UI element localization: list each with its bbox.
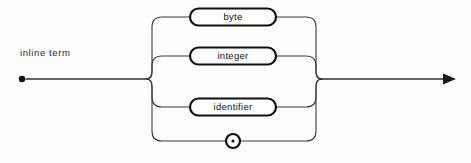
end-arrow-icon [443, 74, 456, 85]
fork-left-rail-byte [146, 17, 190, 79]
node-integer[interactable]: integer [190, 48, 276, 65]
railroad-diagram-canvas: inline term byte integer [0, 0, 471, 163]
fork-left-rail-integer [146, 56, 190, 79]
railroad-svg: byte integer identifier [0, 0, 471, 163]
node-integer-label: integer [217, 50, 248, 61]
node-byte-label: byte [223, 11, 242, 22]
node-dot-terminal[interactable] [226, 134, 240, 148]
node-byte[interactable]: byte [190, 9, 276, 26]
node-identifier-label: identifier [214, 101, 253, 112]
fork-right-rail-identifier [276, 79, 322, 107]
start-dot [19, 76, 25, 82]
node-dot-center-icon [231, 139, 234, 142]
fork-left-rail-identifier [146, 79, 190, 107]
node-identifier[interactable]: identifier [190, 99, 276, 116]
fork-right-rail-integer [276, 56, 322, 79]
fork-right-rail-byte [276, 17, 322, 79]
